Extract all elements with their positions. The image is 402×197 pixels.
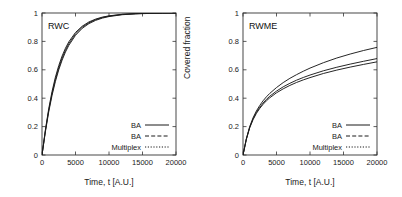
- panel-rwc: 0500010000150002000000.20.40.60.81BABAMu…: [0, 0, 201, 197]
- y-tick-label: 0: [34, 151, 38, 160]
- x-tick-label: 15000: [132, 158, 153, 167]
- x-axis-label-rwc: Time, t [A.U.]: [84, 177, 133, 187]
- x-tick-label: 0: [241, 158, 245, 167]
- x-tick-label: 10000: [300, 158, 321, 167]
- y-tick-label: 0.4: [229, 94, 239, 103]
- x-tick-label: 5000: [67, 158, 84, 167]
- legend-label: BA: [332, 132, 342, 141]
- figure-two-panel-line-charts: 0500010000150002000000.20.40.60.81BABAMu…: [0, 0, 402, 197]
- y-tick-label: 0.8: [28, 37, 38, 46]
- x-tick-label: 0: [40, 158, 44, 167]
- legend-label: BA: [131, 132, 141, 141]
- y-tick-label: 0.4: [28, 94, 38, 103]
- legend-label: Multiplex: [312, 143, 342, 152]
- y-tick-label: 0.8: [229, 37, 239, 46]
- legend-label: BA: [131, 121, 141, 130]
- series-line-dotted: [243, 62, 377, 155]
- x-tick-label: 20000: [367, 158, 388, 167]
- panel-title-rwc: RWC: [48, 21, 69, 31]
- panel-title-rwme: RWME: [249, 21, 277, 31]
- x-tick-label: 20000: [166, 158, 187, 167]
- plot-area-rwc: 0500010000150002000000.20.40.60.81BABAMu…: [0, 0, 201, 197]
- series-line-dashed: [42, 13, 176, 155]
- legend-label: BA: [332, 121, 342, 130]
- x-axis-label-rwme: Time, t [A.U.]: [285, 177, 334, 187]
- series-line-dotted: [42, 13, 176, 155]
- y-tick-label: 0.2: [229, 122, 239, 131]
- x-tick-label: 15000: [333, 158, 354, 167]
- y-tick-label: 0.2: [28, 122, 38, 131]
- y-tick-label: 0.6: [229, 65, 239, 74]
- y-tick-label: 0.6: [28, 65, 38, 74]
- y-tick-label: 1: [34, 9, 38, 18]
- legend-label: Multiplex: [111, 143, 141, 152]
- series-line-dashed: [243, 59, 377, 155]
- x-tick-label: 5000: [268, 158, 285, 167]
- plot-area-rwme: 0500010000150002000000.20.40.60.81BABAMu…: [201, 0, 402, 197]
- series-line-solid: [42, 13, 176, 155]
- series-line-solid: [243, 47, 377, 155]
- y-tick-label: 1: [235, 9, 239, 18]
- y-tick-label: 0: [235, 151, 239, 160]
- y-axis-label-rwme: Covered fraction: [182, 17, 192, 79]
- x-tick-label: 10000: [99, 158, 120, 167]
- panel-rwme: 0500010000150002000000.20.40.60.81BABAMu…: [201, 0, 402, 197]
